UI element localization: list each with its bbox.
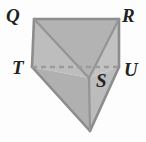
vertex-label-q: Q <box>6 6 20 25</box>
vertex-label-t: T <box>12 58 24 77</box>
geometry-figure: Q R T U S <box>0 0 146 142</box>
vertex-label-r: R <box>122 6 135 25</box>
vertex-label-u: U <box>124 60 138 79</box>
edge-SB <box>89 78 90 131</box>
vertex-label-s: S <box>96 71 107 90</box>
